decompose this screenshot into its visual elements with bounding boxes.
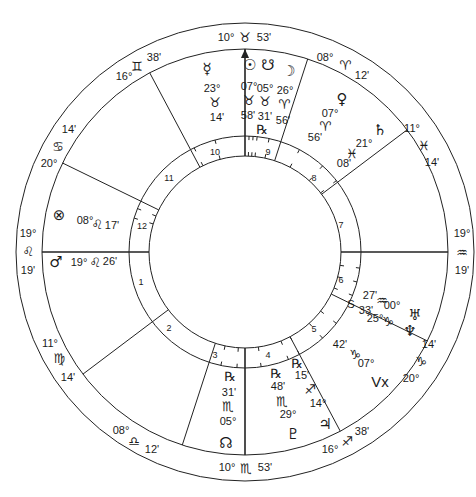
planet-tick: [320, 166, 323, 169]
planet-tick: [215, 140, 216, 144]
house-divider-2: [152, 310, 168, 322]
saturn-minute: 08': [337, 158, 351, 169]
natal-chart-wheel: [0, 0, 476, 497]
sign-leo-icon: ♌: [22, 245, 34, 258]
house-number-12: 12: [137, 222, 147, 231]
planet-tick: [287, 356, 288, 360]
south-node-degree: 05°: [257, 83, 274, 94]
cusp-11-minute: 38': [147, 52, 161, 63]
cusp-11-degree: 16°: [116, 71, 133, 82]
sign-libra-icon: ♎: [128, 435, 140, 448]
planet-tick: [321, 311, 324, 313]
house-ring-inner-circle: [149, 156, 341, 348]
sign-cancer-icon: ♋: [52, 140, 64, 153]
house-divider-12: [141, 201, 159, 210]
vertex-sign-icon: ♑: [349, 348, 361, 361]
cusp-7-degree: 19°: [454, 228, 471, 239]
moon-minute: 56': [276, 115, 290, 126]
north-node-retrograde-icon: ℞: [224, 370, 236, 383]
jupiter-retrograde-icon: ℞: [291, 357, 303, 370]
north-node-sign-icon: ♏: [222, 400, 234, 413]
planet-tick: [261, 363, 262, 367]
neptune-sign-icon: ♑: [382, 315, 394, 328]
cusp-4-degree: 10°: [219, 462, 236, 473]
mars-minute: 26': [103, 256, 117, 267]
house-divider-9: [275, 142, 281, 161]
cusp-6-minute: 14': [422, 339, 436, 350]
house-number-11: 11: [164, 174, 173, 183]
part-of-fortune-icon: ⊗: [53, 208, 66, 223]
neptune-icon: ♆: [403, 324, 416, 339]
planet-tick: [356, 268, 360, 269]
sign-scorpio-icon: ♏: [240, 462, 252, 475]
cusp-12-degree: 20°: [41, 158, 58, 169]
planet-tick: [334, 288, 338, 289]
house-number-2: 2: [166, 324, 171, 333]
planet-tick: [194, 148, 196, 152]
house-number-9: 9: [265, 148, 270, 157]
house-number-10: 10: [210, 148, 220, 157]
pluto-degree: 29°: [280, 409, 297, 420]
planet-tick: [333, 321, 336, 323]
moon-icon: ☽: [282, 64, 295, 79]
sign-taurus-icon: ♉: [239, 31, 251, 44]
cusp-12-minute: 14': [62, 124, 76, 135]
planet-tick: [268, 139, 269, 143]
south-node-retrograde-icon: ℞: [256, 123, 268, 136]
pluto-sign-icon: ♏: [276, 395, 288, 408]
house-number-5: 5: [311, 325, 316, 334]
cusp-9-degree: 08°: [317, 52, 334, 63]
mercury-degree: 23°: [204, 83, 221, 94]
planet-tick: [290, 164, 292, 168]
venus-minute: 56': [308, 132, 322, 143]
cusp-line-house-3: [182, 362, 209, 445]
house-number-1: 1: [138, 278, 143, 287]
planet-tick: [340, 265, 344, 266]
moon-sign-icon: ♈: [278, 98, 290, 111]
north-node-icon: ☊: [219, 436, 232, 451]
cusp-2-degree: 11°: [42, 338, 58, 349]
south-marker-label: S: [347, 299, 354, 310]
house-number-7: 7: [338, 221, 343, 230]
planet-tick: [290, 337, 292, 341]
planet-tick: [298, 150, 300, 154]
cusp-5-degree: 16°: [322, 444, 339, 455]
house-divider-11: [191, 150, 200, 168]
moon-degree: 26°: [277, 85, 294, 96]
planet-tick: [281, 341, 282, 345]
jupiter-degree: 14°: [310, 398, 327, 409]
sign-aquarius-icon: ♒: [456, 246, 468, 259]
planet-tick: [221, 362, 222, 366]
north-node-minute: 31': [222, 387, 236, 398]
cusp-6-degree: 20°: [403, 373, 420, 384]
sun-sign-icon: ♉: [243, 94, 255, 107]
pluto-minute: 48': [271, 381, 285, 392]
cusp-10-degree: 10°: [218, 32, 235, 43]
cusp-1-degree: 19°: [20, 228, 37, 239]
mars-sign-icon: ♌: [89, 256, 101, 269]
planet-tick: [152, 215, 156, 216]
house-number-8: 8: [311, 174, 316, 183]
planet-tick: [224, 346, 225, 350]
cusp-2-minute: 14': [61, 372, 75, 383]
part-of-fortune-sign-icon: ♌: [91, 218, 103, 231]
house-divider-8: [322, 182, 338, 194]
cusp-7-minute: 19': [455, 265, 469, 276]
house-number-4: 4: [265, 351, 270, 360]
south-node-sign-icon: ♉: [259, 95, 271, 108]
cusp-9-minute: 12': [355, 70, 369, 81]
house-number-6: 6: [338, 276, 343, 285]
vertex-minute: 42': [333, 339, 347, 350]
planet-tick: [333, 181, 336, 183]
venus-icon: ♀: [337, 92, 348, 107]
venus-degree: 07°: [322, 108, 339, 119]
cusp-5-minute: 38': [355, 426, 369, 437]
sign-sagittarius-icon: ♐: [341, 435, 353, 448]
cusp-8-degree: 11°: [404, 123, 420, 134]
sign-capricorn-icon: ♑: [415, 355, 427, 368]
planet-tick: [201, 162, 203, 166]
jupiter-minute: 15': [295, 370, 309, 381]
cusp-10-minute: 53': [257, 32, 271, 43]
uranus-minute: 27': [363, 290, 377, 301]
cusp-line-house-2: [83, 322, 152, 374]
